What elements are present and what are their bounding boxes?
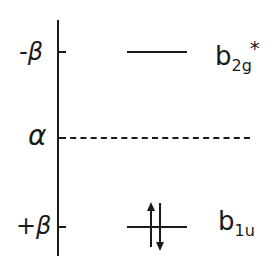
b1u-label: b1u xyxy=(218,208,255,239)
axis-label-alpha: α xyxy=(28,122,46,150)
alpha-reference-dashed-line xyxy=(60,137,250,139)
b2g-label-main: b xyxy=(215,41,232,71)
tick-plus-beta xyxy=(58,226,66,228)
b2g-antibonding-level xyxy=(127,51,187,53)
b2g-label: b2g* xyxy=(215,38,260,74)
b1u-label-main: b xyxy=(218,206,235,236)
b1u-label-subscript: 1u xyxy=(235,221,255,240)
b2g-label-subscript: 2g xyxy=(232,56,252,75)
tick-minus-beta xyxy=(58,51,66,53)
b1u-bonding-level xyxy=(127,226,187,228)
axis-label-plus-beta: +β xyxy=(16,214,51,238)
b2g-label-star: * xyxy=(250,36,260,60)
axis-label-minus-beta: -β xyxy=(19,40,43,64)
